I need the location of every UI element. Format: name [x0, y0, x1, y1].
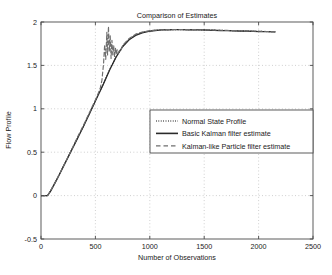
chart-plot: Comparison of Estimates 0500100015002000… [0, 0, 332, 275]
x-tick-label: 0 [39, 242, 43, 251]
x-tick-label: 2000 [251, 242, 267, 251]
chart-title: Comparison of Estimates [137, 11, 218, 20]
figure-canvas: Comparison of Estimates 0500100015002000… [0, 0, 332, 275]
chart-legend: Normal State ProfileBasic Kalman filter … [150, 110, 313, 153]
x-tick-label: 1500 [196, 242, 212, 251]
x-tick-label: 500 [89, 242, 101, 251]
y-tick-label: -0.5 [25, 235, 37, 244]
x-axis-label: Number of Observations [138, 253, 216, 262]
y-tick-label: 2 [33, 18, 37, 27]
x-tick-label: 1000 [142, 242, 158, 251]
y-tick-label: 1.5 [27, 61, 37, 70]
legend-label: Kalman-like Particle filter estimate [182, 142, 290, 151]
legend-label: Normal State Profile [182, 117, 246, 126]
x-tick-label: 2500 [305, 242, 321, 251]
y-axis-label: Flow Profile [4, 111, 13, 149]
y-tick-label: 0.5 [27, 148, 37, 157]
y-tick-label: 0 [33, 191, 37, 200]
y-tick-label: 1 [33, 104, 37, 113]
legend-label: Basic Kalman filter estimate [182, 129, 271, 138]
